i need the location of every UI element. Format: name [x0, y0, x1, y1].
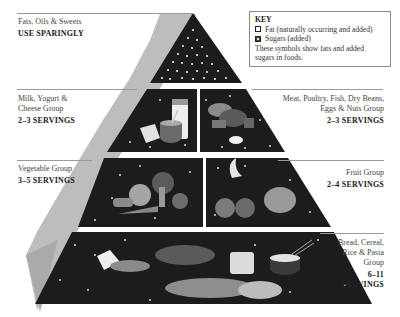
tier-name-line3: Group [338, 258, 384, 268]
tier-name-line1: Bread, Cereal, [338, 238, 384, 248]
tier-servings: 2–4 SERVINGS [327, 180, 384, 190]
divider-fruit [278, 160, 384, 161]
key-item-label: Sugars (added) [265, 34, 311, 44]
sugar-symbol-icon [255, 36, 261, 42]
divider-dairy [17, 89, 137, 90]
tier-servings-line2: SERVINGS [338, 280, 384, 290]
tier-name-line1: Meat, Poultry, Fish, Dry Beans, [283, 94, 384, 104]
divider-vegetable [17, 160, 92, 161]
tier-name: Fats, Oils & Sweets [18, 17, 84, 27]
label-vegetable: Vegetable Group 3–5 SERVINGS [18, 164, 75, 186]
key-title: KEY [255, 15, 385, 25]
key-note: These symbols show fats and added sugars… [255, 44, 385, 63]
tier-name: Vegetable Group [18, 164, 75, 174]
tier-servings: 2–3 SERVINGS [18, 116, 75, 126]
key-legend: KEY Fat (naturally occurring and added) … [249, 11, 391, 67]
label-meat: Meat, Poultry, Fish, Dry Beans, Eggs & N… [283, 94, 384, 126]
label-dairy: Milk, Yogurt & Cheese Group 2–3 SERVINGS [18, 94, 75, 126]
tier-servings-line1: 6–11 [338, 270, 384, 280]
label-fats-oils-sweets: Fats, Oils & Sweets USE SPARINGLY [18, 17, 84, 39]
label-grain: Bread, Cereal, Rice & Pasta Group 6–11 S… [338, 238, 384, 290]
tier-name-line2: Eggs & Nuts Group [283, 104, 384, 114]
fat-symbol-icon [255, 26, 261, 32]
tier-name: Fruit Group [327, 168, 384, 178]
tier-name-line2: Cheese Group [18, 104, 75, 114]
key-item-label: Fat (naturally occurring and added) [265, 25, 373, 35]
tier-name-line2: Rice & Pasta [338, 248, 384, 258]
tier-name-line1: Milk, Yogurt & [18, 94, 75, 104]
divider-top [17, 13, 192, 14]
key-item-fat: Fat (naturally occurring and added) [255, 25, 385, 35]
label-fruit: Fruit Group 2–4 SERVINGS [327, 168, 384, 190]
divider-meat [252, 89, 383, 90]
tier-servings: 2–3 SERVINGS [283, 116, 384, 126]
divider-grain [320, 233, 384, 234]
tier-servings: 3–5 SERVINGS [18, 176, 75, 186]
key-item-sugar: Sugars (added) [255, 34, 385, 44]
tier-servings: USE SPARINGLY [18, 29, 84, 39]
